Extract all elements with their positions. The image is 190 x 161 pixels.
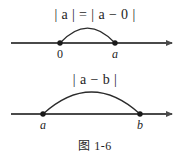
point-marker-a-top — [112, 40, 117, 45]
figure-caption: 图 1-6 — [0, 136, 190, 154]
figure-container: | a | = | a − 0 | | a − b | 0 a a b 图 1-… — [0, 0, 190, 161]
panel-top-axis-group — [11, 28, 172, 46]
point-marker-zero — [57, 40, 62, 45]
expression-label-bottom: | a − b | — [0, 72, 190, 88]
tick-label-zero: 0 — [52, 47, 68, 62]
point-marker-a-bottom — [40, 111, 45, 116]
tick-label-b: b — [132, 118, 148, 133]
tick-label-a-top: a — [107, 47, 123, 62]
panel-bottom-axis-group — [11, 92, 172, 117]
expression-label-top: | a | = | a − 0 | — [0, 7, 190, 23]
tick-label-a-bottom: a — [35, 118, 51, 133]
distance-arc-top — [60, 28, 115, 43]
distance-arc-bottom — [43, 92, 140, 114]
point-marker-b — [137, 111, 142, 116]
